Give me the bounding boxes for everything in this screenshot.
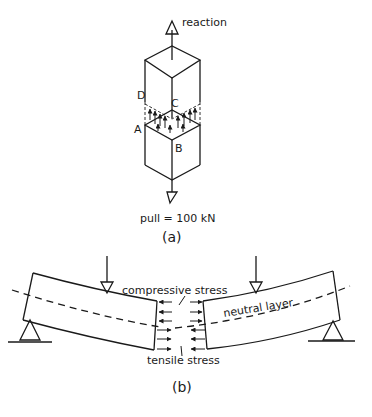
tensile-stress-label: tensile stress (147, 354, 220, 367)
reaction-arrow-icon (166, 21, 178, 60)
figure-a: reaction (134, 16, 227, 245)
right-support-icon (308, 321, 355, 341)
diagram-canvas: reaction (0, 0, 372, 417)
left-load-arrow-icon (101, 256, 113, 293)
caption-a: (a) (162, 229, 182, 245)
corner-label-b: B (175, 142, 183, 155)
compressive-stress-arrows (159, 302, 202, 321)
caption-b: (b) (172, 379, 192, 395)
left-support-icon (8, 320, 52, 342)
compressive-leader (179, 296, 185, 305)
corner-label-c: C (171, 97, 179, 110)
neutral-layer-label: neutral layer (222, 296, 294, 320)
pull-arrow-icon (167, 180, 177, 203)
lower-block (145, 110, 200, 180)
corner-label-d: D (137, 89, 145, 102)
reaction-label: reaction (182, 16, 227, 29)
corner-label-a: A (134, 123, 142, 136)
right-load-arrow-icon (250, 256, 262, 293)
pull-label: pull = 100 kN (140, 212, 215, 225)
compressive-stress-label: compressive stress (122, 284, 228, 297)
figure-b: compressive stress tensile stress neutra… (8, 256, 355, 395)
